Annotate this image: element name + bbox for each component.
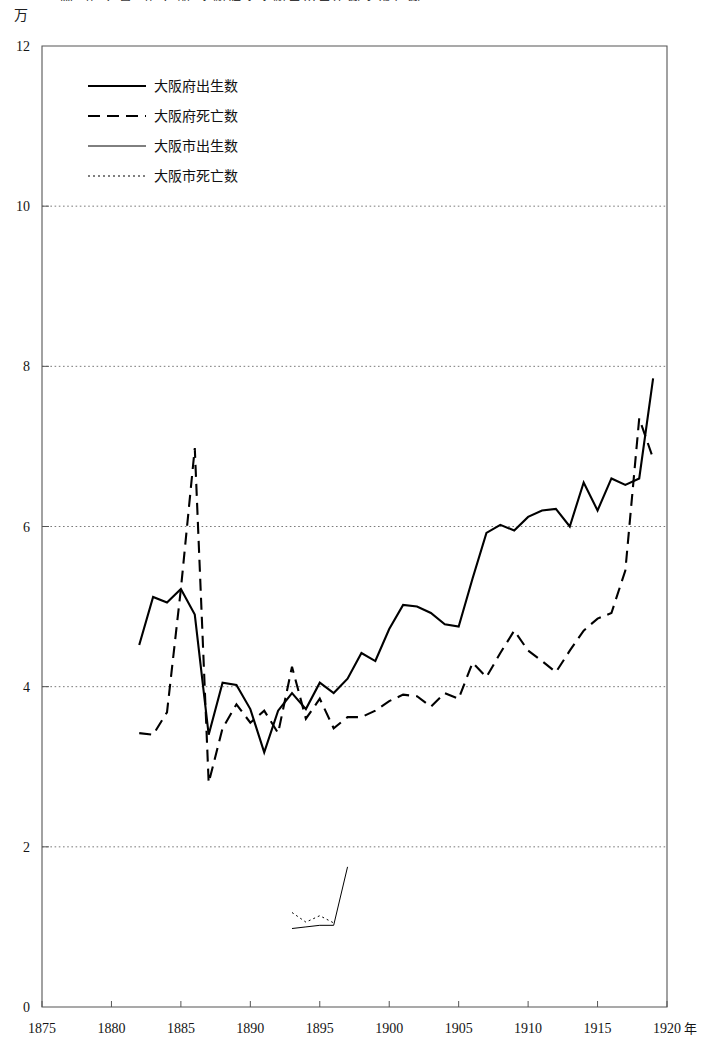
line-chart: 1875188018851890189519001905191019151920… [0,0,704,1044]
grid-lines [42,206,667,847]
x-tick-label: 1885 [167,1021,195,1036]
y-axis-tick-labels: 024681012 [16,39,30,1015]
x-tick-label: 1890 [236,1021,264,1036]
series-line-4 [292,913,334,923]
y-tick-label: 12 [16,39,30,54]
y-tick-label: 2 [23,840,30,855]
x-axis-ticks [42,1001,667,1007]
figure-container: 図 第 2 章 第 1 節 大阪府・大阪市の出生数と死亡数 万 18751880… [0,0,704,1044]
y-axis-unit-label: 万 [14,8,28,22]
x-tick-label: 1880 [97,1021,125,1036]
x-axis-unit-suffix: 年 [684,1021,697,1036]
series-line-1 [139,378,653,752]
x-axis-tick-labels: 1875188018851890189519001905191019151920… [28,1021,697,1036]
series-line-2 [139,418,653,782]
y-tick-label: 4 [23,680,30,695]
data-series-layer [139,378,653,928]
legend-label-2: 大阪府死亡数 [154,108,238,124]
y-tick-label: 0 [23,1000,30,1015]
y-tick-label: 10 [16,199,30,214]
x-tick-label: 1905 [445,1021,473,1036]
series-line-3 [292,867,348,929]
truncated-figure-header: 図 第 2 章 第 1 節 大阪府・大阪市の出生数と死亡数 [60,0,620,1]
y-tick-label: 6 [23,520,30,535]
legend-label-1: 大阪府出生数 [154,78,238,94]
x-tick-label: 1900 [375,1021,403,1036]
legend-label-4: 大阪市死亡数 [154,168,238,184]
legend-label-3: 大阪市出生数 [154,138,238,154]
y-tick-label: 8 [23,359,30,374]
x-tick-label: 1910 [514,1021,542,1036]
x-tick-label: 1915 [584,1021,612,1036]
x-tick-label: 1875 [28,1021,56,1036]
x-tick-label: 1920 [653,1021,681,1036]
chart-legend: 大阪府出生数大阪府死亡数大阪市出生数大阪市死亡数 [88,78,238,184]
x-tick-label: 1895 [306,1021,334,1036]
y-axis-ticks [42,206,49,847]
